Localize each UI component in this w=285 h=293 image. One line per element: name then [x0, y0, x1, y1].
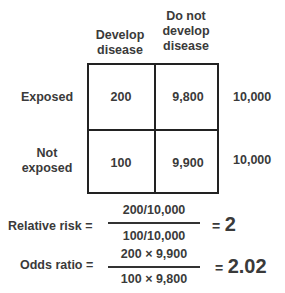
- header-line: Do not: [153, 9, 219, 24]
- total-value: 10,000: [233, 90, 271, 104]
- cell-value: 100: [111, 156, 132, 170]
- row-label-line: exposed: [14, 161, 80, 176]
- cell-value: 9,900: [172, 156, 203, 170]
- relative-risk-fraction-bar: [108, 222, 200, 224]
- header-line: Develop: [87, 28, 153, 43]
- cell-exposed-not-develop: 9,800: [156, 65, 220, 129]
- relative-risk-result: = 2: [212, 213, 236, 236]
- row-label-line: Not: [14, 146, 80, 161]
- header-line: develop: [153, 24, 219, 39]
- result-value: 2.02: [228, 255, 267, 277]
- cell-not-exposed-develop: 100: [89, 131, 153, 195]
- denominator-text: 100/10,000: [123, 229, 186, 243]
- odds-ratio-denominator: 100 × 9,800: [108, 272, 200, 287]
- equals-sign: =: [212, 218, 220, 234]
- odds-ratio-result: = 2.02: [215, 255, 267, 278]
- row-label-line: Exposed: [14, 90, 80, 105]
- label-text: Relative risk =: [8, 219, 92, 233]
- odds-ratio-fraction-bar: [108, 266, 200, 268]
- header-line: disease: [87, 43, 153, 58]
- odds-ratio-label: Odds ratio =: [20, 258, 93, 272]
- row-label-exposed: Exposed: [14, 90, 80, 105]
- cell-value: 200: [111, 90, 132, 104]
- column-header-develop-disease: Develop disease: [87, 28, 153, 58]
- relative-risk-label: Relative risk =: [8, 219, 92, 233]
- cell-exposed-develop: 200: [89, 65, 153, 129]
- equals-sign: =: [215, 260, 223, 276]
- numerator-text: 200 × 9,900: [121, 247, 187, 261]
- label-text: Odds ratio =: [20, 258, 93, 272]
- numerator-text: 200/10,000: [123, 203, 186, 217]
- contingency-table-grid: 200 9,800 100 9,900: [87, 63, 219, 194]
- row-total-exposed: 10,000: [233, 90, 271, 104]
- row-total-not-exposed: 10,000: [233, 153, 271, 167]
- row-label-not-exposed: Not exposed: [14, 146, 80, 176]
- relative-risk-numerator: 200/10,000: [108, 203, 200, 218]
- cell-not-exposed-not-develop: 9,900: [156, 131, 220, 195]
- relative-risk-denominator: 100/10,000: [108, 229, 200, 244]
- result-value: 2: [225, 213, 236, 235]
- column-header-do-not-develop-disease: Do not develop disease: [153, 9, 219, 54]
- header-line: disease: [153, 39, 219, 54]
- odds-ratio-numerator: 200 × 9,900: [108, 247, 200, 262]
- cell-value: 9,800: [172, 90, 203, 104]
- denominator-text: 100 × 9,800: [121, 272, 187, 286]
- total-value: 10,000: [233, 153, 271, 167]
